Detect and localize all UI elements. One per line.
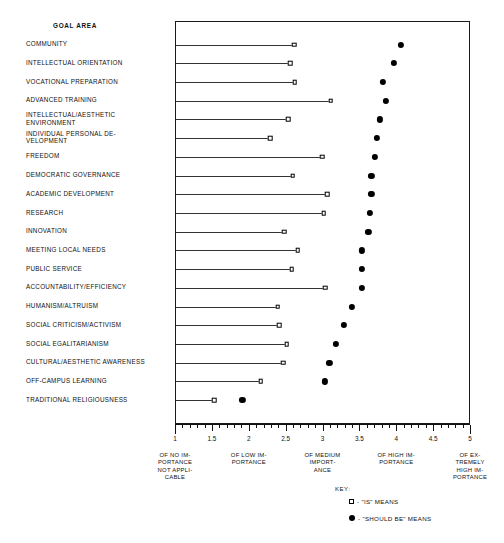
chart-row (176, 101, 469, 102)
axis-anchor-caption: OF LOW IM- PORTANCE (216, 452, 282, 467)
goal-area-row-label: PUBLIC SERVICE (26, 265, 82, 272)
is-mean-marker (288, 61, 293, 66)
goal-area-row-label: INTELLECTUAL/AESTHETIC ENVIRONMENT (26, 111, 115, 126)
stem-line (176, 119, 288, 120)
x-axis-tick (249, 425, 250, 431)
goal-area-row-label: HUMANISM/ALTRUISM (26, 302, 98, 309)
x-axis-tick (396, 425, 397, 431)
x-axis-tick (418, 425, 419, 428)
goal-area-row-label: SOCIAL EGALITARIANISM (26, 340, 109, 347)
legend-item-is: - "IS" MEANS (349, 497, 398, 505)
x-axis-tick (293, 425, 294, 428)
x-axis-tick (389, 425, 390, 428)
goal-area-row-label: ADVANCED TRAINING (26, 96, 97, 103)
is-mean-marker (275, 304, 280, 309)
filled-circle-icon (349, 515, 355, 521)
goal-area-row-label: MEETING LOCAL NEEDS (26, 246, 106, 253)
is-mean-marker (268, 136, 273, 141)
x-axis-tick-label: 2.5 (281, 435, 290, 442)
is-mean-marker (325, 192, 330, 197)
is-mean-marker (323, 286, 328, 291)
chart-row (176, 45, 469, 46)
x-axis-tick (382, 425, 383, 428)
x-axis-tick (227, 425, 228, 428)
stem-line (176, 63, 290, 64)
x-axis-tick (433, 425, 434, 431)
open-square-icon (349, 499, 354, 504)
should-be-mean-marker (398, 41, 404, 47)
chart-row (176, 325, 469, 326)
chart-row (176, 157, 469, 158)
stem-line (176, 45, 294, 46)
stem-line (176, 232, 284, 233)
x-axis-tick (175, 425, 176, 434)
x-axis-tick (241, 425, 242, 428)
chart-row (176, 250, 469, 251)
stem-line (176, 250, 298, 251)
goal-area-row-label: VOCATIONAL PREPARATION (26, 78, 118, 85)
stem-line (176, 325, 279, 326)
chart-row (176, 400, 469, 401)
x-axis-tick (323, 425, 324, 431)
x-axis-tick (212, 425, 213, 431)
should-be-mean-marker (390, 60, 396, 66)
should-be-mean-marker (359, 247, 365, 253)
x-axis-tick (404, 425, 405, 428)
x-axis-tick (337, 425, 338, 428)
stem-line (176, 269, 292, 270)
goal-area-row-label: TRADITIONAL RELIGIOUSNESS (26, 396, 128, 403)
stem-line (176, 400, 214, 401)
should-be-mean-marker (383, 98, 389, 104)
goal-area-header: GOAL AREA (0, 22, 150, 29)
should-be-mean-marker (359, 266, 365, 272)
x-axis-tick (308, 425, 309, 428)
chart-row (176, 232, 469, 233)
is-mean-marker (321, 211, 326, 216)
legend-title: KEY: (335, 486, 350, 492)
goal-area-row-label: ACADEMIC DEVELOPMENT (26, 190, 114, 197)
should-be-mean-marker (372, 154, 378, 160)
should-be-mean-marker (348, 303, 354, 309)
x-axis-tick (374, 425, 375, 428)
x-axis-tick (190, 425, 191, 428)
should-be-mean-marker (376, 116, 382, 122)
x-axis-tick-label: 1.5 (207, 435, 216, 442)
chart-row (176, 381, 469, 382)
goal-area-row-label: RESEARCH (26, 209, 63, 216)
stem-line (176, 213, 324, 214)
x-axis-tick (286, 425, 287, 431)
x-axis-tick (234, 425, 235, 428)
stem-line (176, 344, 287, 345)
is-mean-marker (320, 155, 325, 160)
x-axis-tick (330, 425, 331, 428)
should-be-mean-marker (368, 172, 374, 178)
x-axis-tick (426, 425, 427, 428)
is-mean-marker (290, 173, 295, 178)
goal-area-row-label: COMMUNITY (26, 40, 67, 47)
x-axis-tick-label: 4.5 (429, 435, 438, 442)
is-mean-marker (259, 379, 264, 384)
chart-row (176, 307, 469, 308)
chart-row (176, 194, 469, 195)
should-be-mean-marker (333, 341, 339, 347)
chart-row (176, 176, 469, 177)
axis-anchor-caption: OF EX- TREMELY HIGH IM- PORTANCE (437, 452, 503, 481)
x-axis-tick (345, 425, 346, 428)
legend-item-is-label: - "IS" MEANS (357, 498, 398, 505)
x-axis-tick (455, 425, 456, 428)
x-axis-tick (367, 425, 368, 428)
goal-area-row-label: DEMOCRATIC GOVERNANCE (26, 171, 120, 178)
goal-area-row-label: INTELLECTUAL ORIENTATION (26, 59, 123, 66)
chart-row (176, 82, 469, 83)
x-axis-tick (448, 425, 449, 428)
is-mean-marker (286, 117, 291, 122)
should-be-mean-marker (326, 360, 332, 366)
stem-line (176, 138, 270, 139)
x-axis-tick (463, 425, 464, 428)
x-axis-tick (256, 425, 257, 428)
x-axis-tick (352, 425, 353, 428)
is-mean-marker (329, 98, 334, 103)
stem-line (176, 381, 261, 382)
plot-area (175, 21, 470, 424)
x-axis-tick (205, 425, 206, 428)
